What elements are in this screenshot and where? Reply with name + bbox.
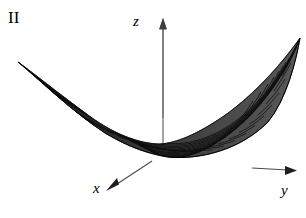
panel-label: II bbox=[8, 9, 19, 26]
parabolic-surface bbox=[18, 38, 300, 158]
surface-plot-svg bbox=[0, 0, 306, 218]
figure-canvas: II z x y bbox=[0, 0, 306, 218]
z-axis-upper bbox=[159, 18, 167, 118]
y-axis bbox=[252, 166, 297, 175]
x-axis bbox=[106, 161, 152, 191]
z-axis-label: z bbox=[133, 14, 139, 29]
y-axis-label: y bbox=[281, 183, 288, 198]
x-axis-label: x bbox=[93, 181, 100, 196]
